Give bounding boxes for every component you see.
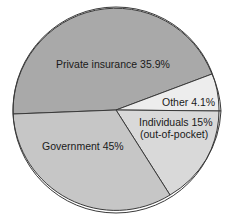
label-individuals-line2: (out-of-pocket): [140, 128, 208, 140]
pie-chart: Private insurance 35.9% Other 4.1% Indiv…: [0, 0, 228, 214]
label-government: Government 45%: [42, 140, 124, 152]
label-private-insurance: Private insurance 35.9%: [56, 58, 170, 70]
label-other: Other 4.1%: [162, 96, 215, 108]
label-individuals-line1: Individuals 15%: [139, 116, 213, 128]
